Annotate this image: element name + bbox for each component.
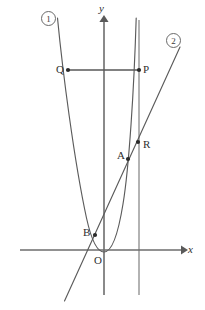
point-label-r: R	[143, 139, 150, 150]
point-dot-b	[93, 233, 97, 237]
point-label-p: P	[143, 64, 149, 75]
point-dot-q	[66, 68, 70, 72]
curve-tag-2: 2	[166, 33, 181, 48]
x-axis-arrowhead	[181, 245, 188, 254]
point-label-q: Q	[56, 64, 64, 75]
point-dot-r	[136, 140, 140, 144]
parabola-curve-1	[58, 18, 137, 252]
point-label-a: A	[117, 150, 125, 161]
origin-label: O	[94, 255, 102, 266]
curve-tag-1: 1	[41, 11, 56, 26]
straight-line-curve-2	[65, 47, 181, 301]
point-label-b: B	[83, 227, 90, 238]
y-axis-label: y	[99, 3, 104, 14]
geometry-figure: 1 2 Q P R A B O x y	[0, 0, 205, 310]
point-dot-p	[137, 68, 141, 72]
point-dot-a	[126, 157, 130, 161]
x-axis-label: x	[188, 244, 193, 255]
y-axis-arrowhead	[99, 15, 108, 22]
